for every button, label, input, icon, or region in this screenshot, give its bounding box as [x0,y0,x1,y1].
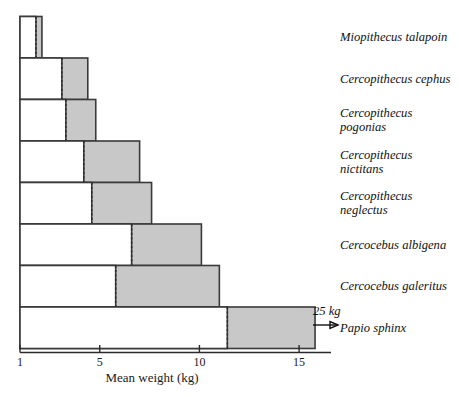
species-label: Cercopithecusneglectus [340,189,412,217]
x-axis-title: Mean weight (kg) [105,370,198,385]
bar-segment-female [20,266,116,308]
bar-row [20,58,88,100]
bar-row [20,224,201,266]
species-label: Papio sphinx [339,321,407,335]
x-axis: 151015 Mean weight (kg) [17,345,331,385]
bars-layer [20,17,315,349]
bar-row [20,266,219,308]
bar-segment-female [20,183,92,225]
mean-weight-bar-chart: 151015 Mean weight (kg) Miopithecus tala… [0,0,459,397]
species-label: Cercocebus galeritus [340,279,447,293]
axis-tick-label: 10 [193,355,205,369]
axis-tick-label: 15 [293,355,305,369]
species-label: Miopithecus talapoin [339,30,447,44]
bar-row [20,17,42,59]
bar-row [20,307,315,349]
species-label: Cercopithecusnictitans [340,148,412,176]
bar-segment-female [20,100,66,142]
bar-segment-female [20,307,227,349]
axis-tick-label: 5 [97,355,103,369]
bar-row [20,183,152,225]
bar-segment-female [20,224,132,266]
annotation-label: 25 kg [313,304,341,318]
weight-annotation: 25 kg [313,304,341,329]
species-labels: Miopithecus talapoinCercopithecus cephus… [339,30,450,335]
bar-row [20,100,96,142]
bar-segment-female [20,17,36,59]
species-label: Cercopithecuspogonias [339,106,412,134]
axis-tick-label: 1 [17,355,23,369]
species-label: Cercocebus albigena [340,238,446,252]
bar-segment-female [20,141,84,183]
axis-tick-labels: 151015 [17,355,305,369]
bar-row [20,141,140,183]
species-label: Cercopithecus cephus [340,72,450,86]
bar-segment-female [20,58,62,100]
